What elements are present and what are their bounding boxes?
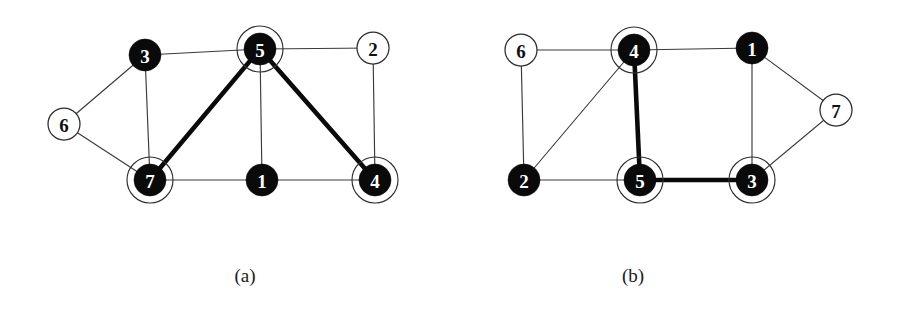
node-disc-filled[interactable]	[129, 39, 161, 71]
node-disc-filled[interactable]	[624, 164, 656, 196]
graph-edge	[521, 50, 524, 180]
graph-node[interactable]: 6	[48, 108, 80, 140]
graph-node[interactable]: 7	[820, 94, 852, 126]
node-layer: 35267146417253	[48, 26, 852, 203]
node-disc-open[interactable]	[505, 34, 537, 66]
graph-edge	[150, 49, 260, 180]
node-disc-filled[interactable]	[359, 164, 391, 196]
graph-edge	[260, 49, 375, 180]
node-disc-filled[interactable]	[246, 164, 278, 196]
graph-node[interactable]: 5	[617, 157, 663, 203]
graph-node[interactable]: 1	[246, 164, 278, 196]
graph-node[interactable]: 3	[729, 157, 775, 203]
graph-edge	[634, 50, 640, 180]
graph-node[interactable]: 5	[237, 26, 283, 72]
node-disc-filled[interactable]	[508, 164, 540, 196]
graph-edge	[145, 49, 260, 55]
panel-caption-b: (b)	[622, 265, 644, 287]
graph-diagram-canvas: 35267146417253	[0, 0, 899, 322]
graph-node[interactable]: 2	[508, 164, 540, 196]
graph-edge	[260, 48, 373, 49]
node-disc-filled[interactable]	[134, 164, 166, 196]
node-disc-filled[interactable]	[736, 164, 768, 196]
node-disc-open[interactable]	[820, 94, 852, 126]
node-disc-open[interactable]	[357, 32, 389, 64]
graph-edge	[260, 49, 262, 180]
graph-edge	[524, 50, 634, 180]
graph-node[interactable]: 7	[127, 157, 173, 203]
graph-node[interactable]: 6	[505, 34, 537, 66]
graph-edge	[634, 48, 752, 50]
graph-edge	[145, 55, 150, 180]
edge-layer	[64, 48, 836, 180]
graph-node[interactable]: 2	[357, 32, 389, 64]
node-disc-filled[interactable]	[618, 34, 650, 66]
graph-node[interactable]: 4	[611, 27, 657, 73]
figure-root: 35267146417253 (a)(b)	[0, 0, 899, 322]
node-disc-filled[interactable]	[736, 32, 768, 64]
graph-node[interactable]: 1	[736, 32, 768, 64]
node-disc-filled[interactable]	[244, 33, 276, 65]
graph-node[interactable]: 4	[352, 157, 398, 203]
graph-node[interactable]: 3	[129, 39, 161, 71]
node-disc-open[interactable]	[48, 108, 80, 140]
panel-caption-a: (a)	[234, 265, 255, 287]
graph-edge	[373, 48, 375, 180]
